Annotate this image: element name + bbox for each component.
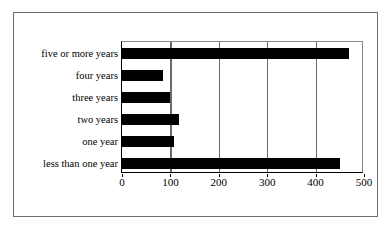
plot-area: five or more years four years three year… — [121, 41, 363, 173]
y-axis-label: less than one year — [43, 158, 118, 169]
x-axis-tick-label: 500 — [356, 176, 373, 188]
bar-four-years — [122, 70, 163, 81]
y-axis-label: three years — [72, 92, 118, 103]
bar-row: less than one year — [122, 152, 340, 174]
x-axis-tick-label: 300 — [259, 176, 276, 188]
bar-less-than-one-year — [122, 158, 340, 169]
y-axis-label: two years — [77, 114, 118, 125]
bar-two-years — [122, 114, 179, 125]
bar-row: five or more years — [122, 42, 349, 64]
x-axis-tick-label: 200 — [211, 176, 228, 188]
x-axis-tick-label: 0 — [119, 176, 125, 188]
bar-five-or-more-years — [122, 48, 349, 59]
x-axis-tick-label: 100 — [162, 176, 179, 188]
bar-row: two years — [122, 108, 179, 130]
y-axis-label: five or more years — [41, 48, 118, 59]
bar-row: one year — [122, 130, 174, 152]
chart-frame: five or more years four years three year… — [13, 12, 378, 217]
y-axis-label: four years — [76, 70, 118, 81]
bar-row: four years — [122, 64, 163, 86]
y-axis-label: one year — [82, 136, 118, 147]
x-axis-tick-label: 400 — [307, 176, 324, 188]
bar-row: three years — [122, 86, 170, 108]
bar-three-years — [122, 92, 170, 103]
bar-one-year — [122, 136, 174, 147]
